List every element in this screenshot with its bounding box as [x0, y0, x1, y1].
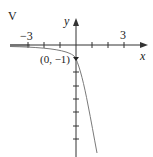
tick-label-neg3: −3 — [20, 29, 33, 43]
point-label: (0, −1) — [40, 53, 70, 66]
y-axis-label: y — [63, 14, 70, 28]
x-axis-label: x — [139, 49, 146, 63]
x-axis-arrow-icon — [140, 42, 148, 48]
graph: V y x −3 3 (0, −1) — [0, 0, 153, 157]
y-axis-arrow-icon — [73, 18, 79, 26]
panel-label: V — [8, 9, 17, 23]
point-marker-icon — [73, 57, 79, 61]
tick-label-pos3: 3 — [120, 28, 126, 42]
